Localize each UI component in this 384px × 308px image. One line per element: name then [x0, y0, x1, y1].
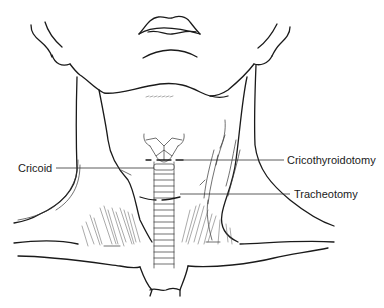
cricoid-cartilage	[154, 164, 174, 170]
tracheotomy-label: Tracheotomy	[294, 188, 358, 200]
lips	[139, 16, 200, 34]
larynx	[144, 134, 184, 162]
cricoid-label: Cricoid	[18, 162, 52, 174]
chin-crease	[143, 50, 197, 58]
trachea	[154, 162, 174, 268]
neck-anatomy-diagram: Cricoid Cricothyroidotomy Tracheotomy	[0, 0, 384, 308]
muscle-strands	[18, 120, 240, 240]
anatomy-illustration: Cricoid Cricothyroidotomy Tracheotomy	[0, 0, 384, 308]
manubrium	[140, 266, 188, 296]
right-jaw	[210, 24, 290, 96]
faint-markings	[146, 96, 173, 97]
cricothyroidotomy-label: Cricothyroidotomy	[287, 154, 376, 166]
